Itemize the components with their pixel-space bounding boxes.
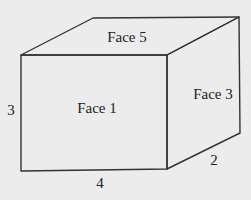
length-label: 4: [96, 176, 104, 191]
face-1-label: Face 1: [77, 101, 117, 116]
prism-diagram: Face 5 Face 1 Face 3 3 4 2: [0, 0, 251, 200]
depth-label: 2: [210, 153, 218, 168]
face-3-label: Face 3: [193, 87, 233, 102]
face-5-label: Face 5: [107, 30, 147, 45]
height-label: 3: [7, 103, 15, 118]
